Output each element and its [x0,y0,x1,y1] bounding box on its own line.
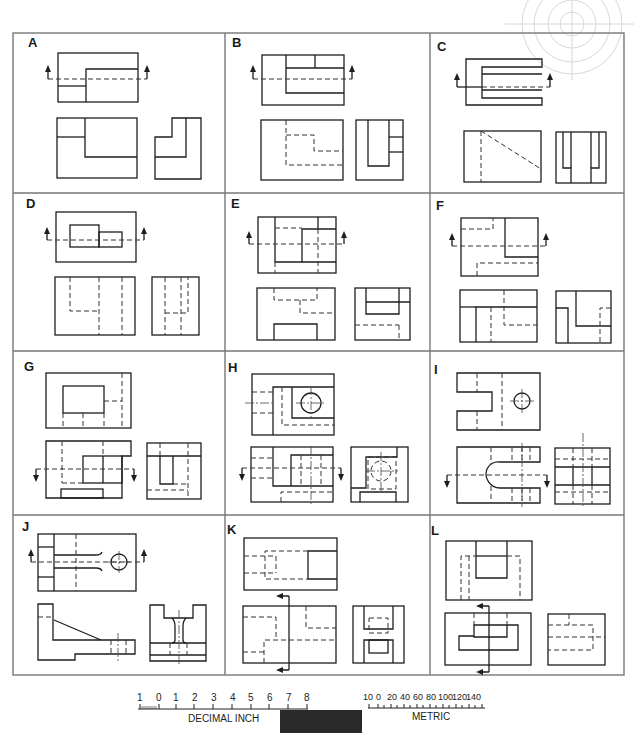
top-view [44,212,147,262]
svg-text:7: 7 [286,692,292,703]
front-view [33,441,137,498]
panel-f: F [436,198,611,343]
panel-label: D [26,196,35,211]
svg-text:140: 140 [466,692,481,702]
panel-label: G [24,359,34,374]
panel-label: B [232,35,241,50]
top-view [28,534,147,591]
side-view [548,614,605,665]
svg-text:20: 20 [387,692,397,702]
side-view [555,433,610,508]
side-view [353,606,404,663]
front-view [444,443,550,507]
front-view [261,120,343,180]
svg-text:8: 8 [304,692,310,703]
svg-text:120: 120 [452,692,467,702]
panel-d: D [26,196,199,335]
panel-label: J [22,519,29,534]
front-view [464,131,541,182]
side-view [150,605,206,665]
side-view [147,443,201,499]
svg-text:0: 0 [156,692,162,703]
top-view [46,373,131,428]
footer-bar [280,710,362,733]
svg-text:0: 0 [376,692,381,702]
svg-text:2: 2 [192,692,198,703]
front-view [243,593,336,673]
side-view [152,277,199,335]
panel-label: L [431,523,439,538]
panel-label: F [436,198,444,213]
front-view [445,603,531,675]
top-view [457,373,540,430]
side-view [155,118,201,179]
panel-h: H [228,360,408,506]
panel-j: J [22,519,206,665]
svg-text:60: 60 [413,692,423,702]
panel-a: A [28,35,201,179]
panel-b: B [232,35,403,180]
top-view [449,218,549,276]
metric-scale: 10 0 20 40 60 80 100 120 140 METRIC [363,692,485,722]
top-view [446,541,532,600]
panel-label: C [437,39,447,54]
side-view [556,291,611,343]
top-view [250,55,355,105]
panel-label: A [28,35,38,50]
svg-text:3: 3 [211,692,217,703]
panel-label: K [227,522,237,537]
watermark-target-icon [505,0,634,80]
front-view [257,288,335,340]
top-view [244,538,337,590]
svg-text:DECIMAL INCH: DECIMAL INCH [188,713,259,724]
panel-label: I [434,362,438,377]
svg-text:1: 1 [137,692,143,703]
side-view [556,132,606,183]
side-view [351,447,408,502]
svg-text:80: 80 [426,692,436,702]
svg-text:5: 5 [248,692,254,703]
top-view [454,59,553,105]
front-view [57,118,137,178]
svg-text:METRIC: METRIC [412,711,450,722]
panel-label: H [228,360,237,375]
panel-k: K [227,522,404,673]
panel-e: E [231,196,410,340]
front-view [38,604,135,663]
svg-text:40: 40 [400,692,410,702]
top-view [246,217,347,273]
side-view [356,120,403,180]
svg-text:6: 6 [267,692,273,703]
svg-text:4: 4 [230,692,236,703]
front-view [55,277,135,335]
top-view [245,374,334,435]
top-view [45,53,150,102]
panel-i: I [434,362,610,508]
side-view [355,288,410,340]
panel-label: E [231,196,240,211]
svg-text:10: 10 [363,692,373,702]
front-view [460,290,537,342]
panel-g: G [24,359,201,499]
panel-l: L [431,523,605,675]
front-view [239,446,344,506]
svg-text:1: 1 [173,692,179,703]
drawing-sheet: A B [0,0,634,733]
svg-text:100: 100 [438,692,453,702]
